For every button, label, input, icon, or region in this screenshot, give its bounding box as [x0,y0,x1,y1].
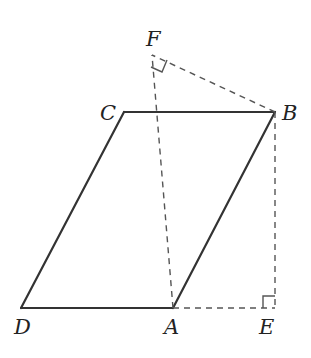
segment-AC-extended-CF [152,55,173,308]
geometry-diagram: F C B D A E [0,0,311,358]
label-A: A [162,315,179,339]
segment-AB [173,112,275,308]
label-C: C [100,101,116,125]
label-D: D [13,315,31,339]
right-angle-mark-E [263,296,275,308]
diagram-canvas: F C B D A E [0,0,311,358]
label-F: F [145,27,162,51]
label-B: B [281,101,297,125]
segment-BF [152,55,275,112]
segment-CD [21,112,124,308]
label-E: E [258,315,274,339]
